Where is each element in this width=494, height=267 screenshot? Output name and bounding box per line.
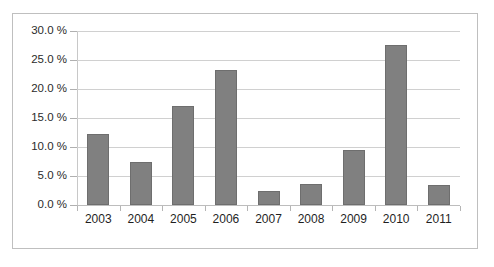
x-axis-tick-label-2004: 2004 [120, 213, 163, 226]
y-axis-tick-mark [70, 60, 77, 61]
bar-2007 [258, 191, 280, 205]
x-axis-tick-mark [417, 206, 418, 211]
bar-chart-figure: 30.0 %25.0 %20.0 %15.0 %10.0 %5.0 %0.0 %… [0, 0, 494, 267]
x-axis-tick-mark [290, 206, 291, 211]
y-axis-tick-label: 25.0 % [31, 54, 67, 66]
x-axis-tick-label-2003: 2003 [77, 213, 120, 226]
x-axis-tick-mark [460, 206, 461, 211]
y-axis-tick-mark [70, 89, 77, 90]
plot-area [77, 31, 460, 205]
y-axis-tick-mark [70, 176, 77, 177]
y-axis-tick-mark [70, 147, 77, 148]
y-axis-tick-mark [70, 118, 77, 119]
x-axis-tick-label-2008: 2008 [290, 213, 333, 226]
y-axis-tick-label: 30.0 % [31, 25, 67, 37]
y-axis-tick-label: 10.0 % [31, 141, 67, 153]
bar-2005 [172, 106, 194, 205]
x-axis-tick-label-2007: 2007 [247, 213, 290, 226]
x-axis-tick-label-2011: 2011 [417, 213, 460, 226]
bar-2004 [130, 162, 152, 205]
bars-layer [77, 31, 460, 205]
x-axis-tick-label-2009: 2009 [332, 213, 375, 226]
bar-2009 [343, 150, 365, 205]
x-axis-tick-label-2010: 2010 [375, 213, 418, 226]
gridline-0 [77, 205, 460, 206]
bar-2003 [87, 134, 109, 205]
bar-2008 [300, 184, 322, 205]
x-axis-tick-mark [77, 206, 78, 211]
x-axis-tick-mark [375, 206, 376, 211]
x-axis-tick-mark [332, 206, 333, 211]
y-axis-tick-label: 15.0 % [31, 112, 67, 124]
y-axis-tick-label: 5.0 % [38, 170, 67, 182]
y-axis-tick-label: 0.0 % [38, 199, 67, 211]
y-axis-labels: 30.0 %25.0 %20.0 %15.0 %10.0 %5.0 %0.0 % [0, 0, 67, 267]
bar-2010 [385, 45, 407, 205]
x-axis-tick-mark [247, 206, 248, 211]
x-axis-tick-label-2006: 2006 [205, 213, 248, 226]
bar-2006 [215, 70, 237, 205]
x-axis-tick-label-2005: 2005 [162, 213, 205, 226]
y-axis-tick-mark [70, 205, 77, 206]
x-axis-tick-mark [120, 206, 121, 211]
y-axis-tick-mark [70, 31, 77, 32]
bar-2011 [428, 185, 450, 205]
x-axis-tick-mark [162, 206, 163, 211]
y-axis-tick-label: 20.0 % [31, 83, 67, 95]
x-axis-tick-mark [205, 206, 206, 211]
